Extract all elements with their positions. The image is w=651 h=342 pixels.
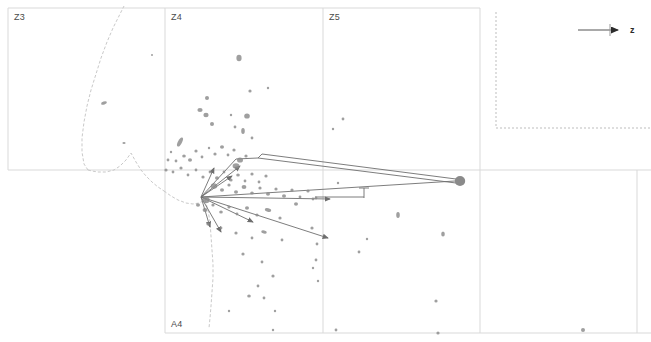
scatter-marker [244,154,247,157]
scatter-marker [312,198,315,201]
scatter-marker [290,188,293,191]
scatter-marker [261,230,267,234]
scatter-marker [248,89,251,92]
scatter-marker [151,54,153,56]
scatter-marker [441,231,445,236]
scatter-marker [244,113,250,118]
scatter-marker [236,55,241,61]
scatter-marker [187,174,190,177]
scatter-marker [210,122,214,126]
figure-canvas: Z3Z4Z5A4 z [0,0,651,342]
scatter-marker [179,166,182,169]
scatter-marker [182,154,186,157]
panel-label-z4: Z4 [171,12,182,22]
scatter-marker [234,190,238,194]
scatter-marker [241,252,244,255]
scatter-marker [172,171,175,174]
scatter-marker [201,175,204,178]
scatter-marker [232,148,235,151]
scatter-marker [234,126,237,129]
panel-label-z3: Z3 [14,12,25,22]
scatter-marker [236,173,240,176]
scatter-marker [211,203,214,206]
scatter-marker [272,329,274,331]
scatter-marker [310,226,313,229]
scatter-marker [264,174,267,177]
scatter-marker [233,163,240,169]
scatter-marker [317,280,319,282]
scatter-marker [208,147,210,149]
scatter-marker [335,329,338,332]
scatter-marker [195,169,198,172]
vector-east-short [201,197,330,199]
scatter-marker [167,159,170,162]
scatter-marker [227,154,230,157]
scatter-marker [196,203,200,207]
scatter-marker [332,128,334,130]
scatter-marker [101,101,108,106]
scatter-marker [234,231,237,234]
scatter-marker [220,188,224,192]
scatter-marker [203,113,208,117]
scatter-marker [227,205,230,208]
scatter-marker [315,197,318,200]
scatter-marker [396,212,400,218]
contour-curves [82,6,213,328]
scatter-marker [306,189,309,192]
scatter-marker [282,194,286,198]
scatter-marker [434,299,437,302]
scatter-marker [176,137,184,148]
contour-descending [205,200,213,328]
scatter-marker [271,274,274,277]
scatter-marker [201,156,204,159]
scatter-marker [237,157,243,162]
scatter-marker [164,168,167,171]
scatter-marker [245,206,249,210]
scatter-marker [312,267,314,269]
contour-left-valley [88,153,164,191]
scatter-marker [281,239,284,242]
scatter-marker [197,108,202,112]
scatter-marker [250,172,253,175]
contour-left-ridge [82,6,124,170]
scatter-marker [251,137,254,140]
scatter-marker [229,178,232,181]
scatter-marker [247,294,251,297]
scatter-marker [219,210,223,213]
dotted-corner-boundary [496,12,651,128]
scatter-markers [101,54,585,335]
scatter-marker [209,171,212,174]
scatter-marker [274,187,277,190]
scatter-marker [223,171,226,174]
scatter-marker [215,176,219,180]
scatter-marker [220,227,223,230]
scatter-marker [213,152,216,155]
scatter-marker [227,183,230,186]
scatter-marker [202,197,209,203]
scatter-marker [258,181,261,184]
vector-wedge-cap [258,154,262,158]
scatter-marker [257,285,260,288]
scatter-marker [316,243,319,246]
vector-long-east [201,181,455,197]
scatter-marker [261,261,264,264]
scatter-marker [250,191,254,194]
z-axis-indicator [578,24,618,36]
terminal-node [455,176,465,186]
scatter-marker [205,96,209,100]
scatter-marker [122,142,125,144]
grid-lines [8,8,651,333]
scatter-marker [241,128,245,134]
scatter-marker [315,259,318,262]
panel-label-z5: Z5 [329,12,340,22]
scatter-marker [342,118,345,121]
scatter-marker [299,196,302,199]
terminal-node [455,176,465,186]
scatter-marker [251,237,254,240]
z-axis-label: z [630,25,635,35]
scatter-marker [175,160,178,163]
plot-svg [0,0,651,342]
scatter-marker [170,151,172,153]
scatter-marker [194,149,197,152]
scatter-marker [581,328,585,332]
